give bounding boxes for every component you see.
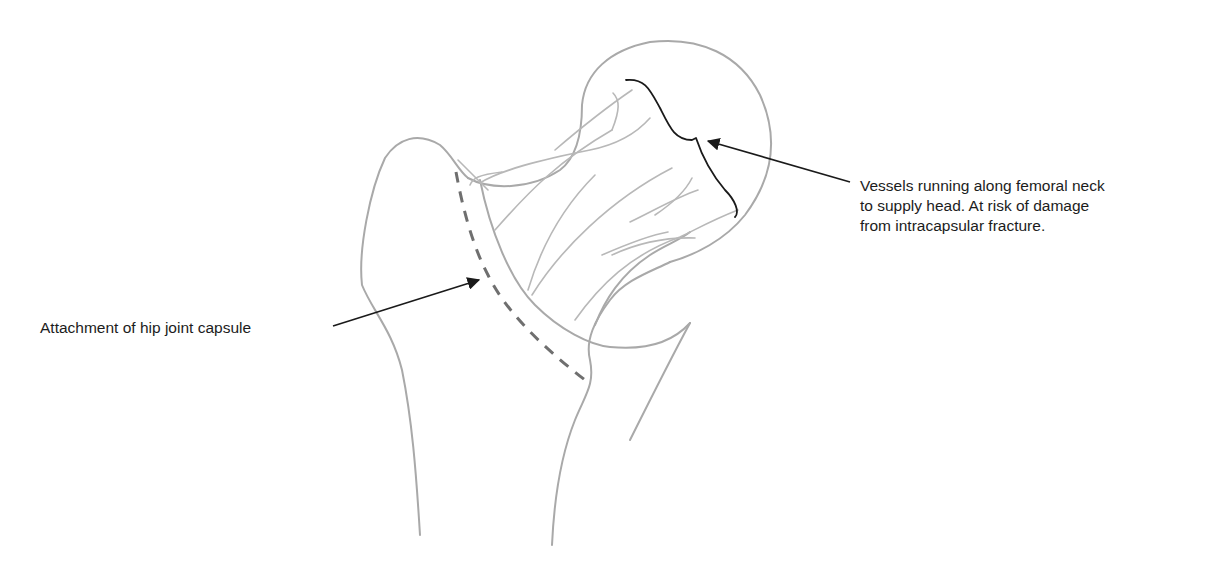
- capsule-pointer-arrow: [333, 280, 479, 326]
- vessels-annotation: Vessels running along femoral neck to su…: [860, 176, 1105, 236]
- femoral-neck-medial: [480, 180, 690, 348]
- head-lower-contour: [595, 232, 690, 325]
- vessels-annotation-line-3: from intracapsular fracture.: [860, 216, 1105, 236]
- femoral-neck-superior: [468, 41, 771, 262]
- capsule-annotation: Attachment of hip joint capsule: [40, 318, 251, 338]
- femoral-head-inferior: [552, 262, 670, 545]
- intertrochanteric-line: [630, 323, 690, 440]
- femur-diagram: [0, 0, 1216, 572]
- femur-outline: [361, 41, 771, 545]
- vessels-annotation-line-1: Vessels running along femoral neck: [860, 176, 1105, 196]
- vessels-pointer-arrow: [708, 141, 850, 182]
- vessels-annotation-line-2: to supply head. At risk of damage: [860, 196, 1105, 216]
- capsule-annotation-text: Attachment of hip joint capsule: [40, 319, 251, 336]
- neck-vessels: [458, 90, 738, 320]
- greater-trochanter-outline: [361, 138, 468, 535]
